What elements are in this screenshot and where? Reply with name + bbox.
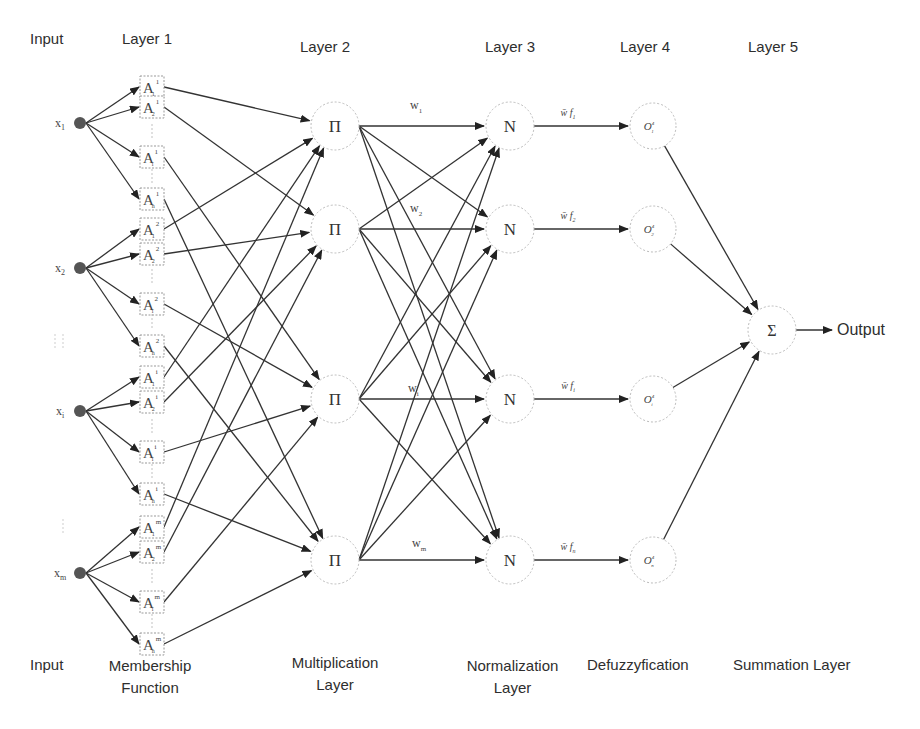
ellipsis-dot xyxy=(151,427,152,428)
ellipsis-dot xyxy=(151,124,152,125)
connection-edge xyxy=(359,126,487,217)
ellipsis-dot xyxy=(151,181,152,182)
ellipsis-dot xyxy=(62,531,63,532)
membership-function-box: A2m xyxy=(140,541,164,563)
input-label: xi xyxy=(56,404,65,420)
header-input: Input xyxy=(30,30,63,47)
membership-function-box: An2 xyxy=(140,335,164,357)
normalized-weight-label: w̄ f1 xyxy=(561,107,576,120)
footer-defuzzification: Defuzzyfication xyxy=(587,656,689,673)
input-node xyxy=(74,262,86,274)
connection-edge xyxy=(86,254,139,268)
defuzzification-node xyxy=(630,206,676,252)
ellipsis-dot xyxy=(151,622,152,623)
connection-edge xyxy=(359,229,491,382)
connection-edge xyxy=(673,342,749,387)
weight-label: wm xyxy=(412,536,427,553)
connection-edge xyxy=(359,250,497,560)
connection-edge xyxy=(86,411,139,452)
normalization-symbol: N xyxy=(504,220,516,239)
connection-edge xyxy=(86,107,139,123)
ellipsis-dot xyxy=(54,346,55,347)
footer-input: Input xyxy=(30,656,63,673)
ellipsis-dot xyxy=(54,342,55,343)
weight-label: w1 xyxy=(410,98,423,115)
ellipsis-dot xyxy=(62,342,63,343)
ellipsis-dot xyxy=(151,468,152,469)
ellipsis-dot xyxy=(151,314,152,315)
membership-function-box: A1i xyxy=(140,366,164,388)
ellipsis-dot xyxy=(151,618,152,619)
input-label: x1 xyxy=(55,116,65,132)
connection-edge xyxy=(86,552,139,573)
connection-edge xyxy=(359,148,499,560)
ellipsis-dot xyxy=(151,472,152,473)
connection-edge xyxy=(665,146,758,309)
footer-normalization-line1: Normalization xyxy=(450,655,575,677)
ellipsis-dot xyxy=(151,322,152,323)
footer-membership-line1: Membership xyxy=(95,655,205,677)
input-node xyxy=(74,405,86,417)
connection-edge xyxy=(671,244,752,315)
ellipsis-dot xyxy=(62,338,63,339)
product-symbol: Π xyxy=(329,220,341,239)
ellipsis-dot xyxy=(151,136,152,137)
ellipsis-dot xyxy=(62,334,63,335)
ellipsis-dot xyxy=(151,577,152,578)
membership-function-box: Ani xyxy=(140,483,164,505)
footer-multiplication: Multiplication Layer xyxy=(275,652,395,696)
membership-function-box: Anm xyxy=(140,633,164,655)
connection-edge xyxy=(164,107,313,215)
membership-function-box: A1m xyxy=(140,516,164,538)
connection-edge xyxy=(86,268,139,346)
footer-membership: Membership Function xyxy=(95,655,205,699)
connection-edge xyxy=(86,411,139,494)
footer-normalization: Normalization Layer xyxy=(450,655,575,699)
weight-label: w2 xyxy=(410,201,423,218)
product-symbol: Π xyxy=(329,551,341,570)
ellipsis-dot xyxy=(151,269,152,270)
ellipsis-dot xyxy=(151,626,152,627)
connection-edge xyxy=(86,123,139,157)
product-symbol: Π xyxy=(329,390,341,409)
header-layer2: Layer 2 xyxy=(300,38,350,55)
ellipsis-dot xyxy=(151,273,152,274)
ellipsis-dot xyxy=(151,573,152,574)
footer-normalization-line2: Layer xyxy=(450,677,575,699)
footer-membership-line2: Function xyxy=(95,677,205,699)
membership-function-box: A11 xyxy=(140,76,164,98)
connection-edge xyxy=(86,268,139,304)
membership-function-box: Aii xyxy=(140,441,164,463)
weight-label: wi xyxy=(408,381,419,398)
ellipsis-dot xyxy=(151,614,152,615)
normalization-symbol: N xyxy=(504,551,516,570)
ellipsis-dot xyxy=(151,318,152,319)
ellipsis-dot xyxy=(151,464,152,465)
connection-edge xyxy=(164,494,311,551)
ellipsis-dot xyxy=(62,346,63,347)
ellipsis-dot xyxy=(151,431,152,432)
footer-multiplication-line2: Layer xyxy=(275,674,395,696)
header-layer1: Layer 1 xyxy=(122,30,172,47)
footer-multiplication-line1: Multiplication xyxy=(275,652,395,674)
normalized-weight-label: w̄ f2 xyxy=(561,210,576,223)
product-symbol: Π xyxy=(329,117,341,136)
input-label: xm xyxy=(54,566,67,582)
ellipsis-dot xyxy=(151,476,152,477)
input-label: x2 xyxy=(55,261,65,277)
ellipsis-dot xyxy=(151,177,152,178)
ellipsis-dot xyxy=(54,338,55,339)
membership-function-box: Ai2 xyxy=(140,293,164,315)
ellipsis-dot xyxy=(151,277,152,278)
membership-function-box: A22 xyxy=(140,243,164,265)
normalized-weight-label: w̄ fi xyxy=(561,380,575,393)
connection-edge xyxy=(86,87,139,123)
connection-edge xyxy=(86,123,139,199)
header-layer4: Layer 4 xyxy=(620,38,670,55)
header-layer3: Layer 3 xyxy=(485,38,535,55)
connection-edge xyxy=(86,573,139,644)
connection-edge xyxy=(164,148,324,527)
ellipsis-dot xyxy=(54,334,55,335)
ellipsis-dot xyxy=(151,423,152,424)
defuzzification-node xyxy=(630,103,676,149)
